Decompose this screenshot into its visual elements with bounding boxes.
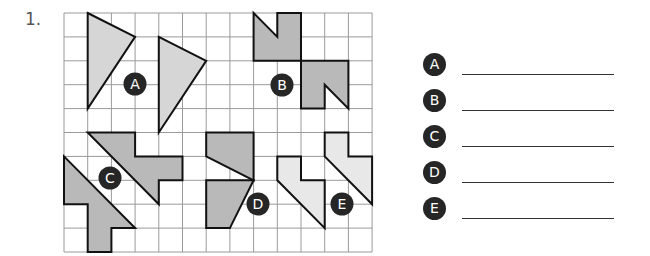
- shape-b-1: [254, 13, 301, 61]
- shape-label-badge-c: C: [99, 167, 122, 190]
- shape-label-badge-e: E: [331, 193, 354, 216]
- svg-text:A: A: [130, 76, 140, 92]
- answer-row-d: D: [423, 161, 623, 185]
- answer-row-e: E: [423, 197, 623, 221]
- answer-line-d[interactable]: [462, 182, 614, 183]
- shape-label-badge-d: D: [247, 193, 270, 216]
- shape-pair-d: [206, 133, 253, 229]
- label-badge-b: B: [423, 89, 446, 112]
- answer-line-a[interactable]: [462, 74, 614, 75]
- shape-label-badge-a: A: [124, 73, 147, 96]
- shape-label-badge-b: B: [271, 74, 294, 97]
- shape-pair-e: [277, 133, 372, 229]
- label-badge-a: A: [423, 53, 446, 76]
- answer-line-e[interactable]: [462, 218, 614, 219]
- svg-text:D: D: [253, 196, 264, 212]
- svg-text:B: B: [277, 77, 287, 93]
- shape-pair-c: [64, 133, 183, 253]
- shape-b-2: [301, 61, 348, 109]
- shape-pair-b: [254, 13, 349, 109]
- answer-line-c[interactable]: [462, 146, 614, 147]
- label-badge-c: C: [423, 125, 446, 148]
- shape-pair-a: [88, 13, 207, 133]
- label-badge-d: D: [423, 161, 446, 184]
- svg-text:C: C: [105, 170, 115, 186]
- label-badge-e: E: [423, 197, 446, 220]
- answer-row-c: C: [423, 125, 623, 149]
- answer-line-b[interactable]: [462, 110, 614, 111]
- shape-pairs: [64, 13, 372, 252]
- answer-row-b: B: [423, 89, 623, 113]
- answer-row-a: A: [423, 53, 623, 77]
- svg-text:E: E: [338, 196, 347, 212]
